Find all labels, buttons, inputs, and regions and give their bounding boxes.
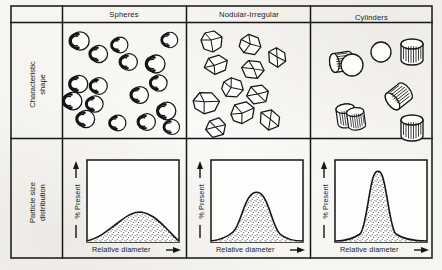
chart-cylinders xyxy=(0,0,442,270)
x-axis-label-cylinders: Relative diameter xyxy=(340,245,398,254)
particle-morphology-figure: Spheres Nodular-Irregular Cylinders Char… xyxy=(0,0,442,270)
y-axis-label-cylinders: % Present xyxy=(321,174,330,230)
x-axis-arrow xyxy=(414,247,429,253)
